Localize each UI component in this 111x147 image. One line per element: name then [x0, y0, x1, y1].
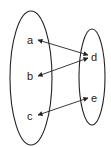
label-e: e: [91, 92, 97, 104]
label-a: a: [27, 34, 34, 46]
arrow-c-e: [38, 98, 88, 115]
label-c: c: [27, 110, 33, 122]
right-set-ellipse: [79, 29, 105, 125]
arrow-b-d: [38, 58, 88, 76]
label-d: d: [91, 51, 97, 63]
label-b: b: [27, 70, 33, 82]
arrow-a-d: [38, 40, 88, 55]
mapping-diagram: a b c d e: [0, 0, 111, 147]
diagram-canvas: a b c d e: [0, 0, 111, 147]
